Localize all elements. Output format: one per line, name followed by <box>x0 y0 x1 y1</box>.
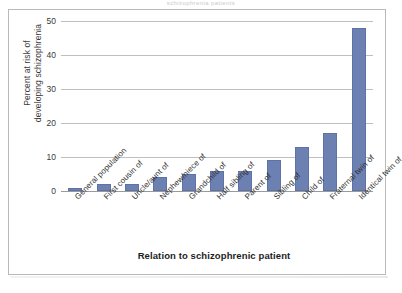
y-tick-label-30: 30 <box>47 84 56 94</box>
y-tick-label-50: 50 <box>47 16 56 26</box>
scan-top-cutoff-text: schizophrenia patients <box>0 0 402 9</box>
x-tick-slot: Fraternal twin of <box>316 193 344 255</box>
x-tick-slot: Identical twin of <box>345 193 373 255</box>
x-axis-title: Relation to schizophrenic patient <box>49 250 379 261</box>
x-axis-tick-labels: General populationFirst cousin ofUncle/a… <box>61 193 373 255</box>
bar-slot <box>288 21 316 191</box>
x-tick-slot: Uncle/aunt of <box>118 193 146 255</box>
x-tick-slot: Sibling of <box>260 193 288 255</box>
bar-child-of[interactable] <box>295 147 309 191</box>
figure-shadow <box>10 276 388 278</box>
bar-slot <box>316 21 344 191</box>
y-axis-title: Percent at risk of developing schizophre… <box>22 3 44 143</box>
bar-slot <box>260 21 288 191</box>
bar-slot <box>61 21 89 191</box>
y-tick-label-40: 40 <box>47 50 56 60</box>
bar-chart: Percent at risk of developing schizophre… <box>9 10 387 276</box>
x-tick-slot: General population <box>61 193 89 255</box>
x-tick-slot: First cousin of <box>89 193 117 255</box>
bar-fraternal-twin-of[interactable] <box>323 133 337 191</box>
x-tick-slot: Child of <box>288 193 316 255</box>
x-tick-slot: Nephew/niece of <box>146 193 174 255</box>
x-tick-slot: Half sibling of <box>203 193 231 255</box>
y-tick-label-0: 0 <box>51 186 56 196</box>
x-tick-slot: Grandchild of <box>174 193 202 255</box>
y-axis-title-line1: Percent at risk of <box>22 3 33 143</box>
y-tick-label-20: 20 <box>47 118 56 128</box>
y-axis-title-line2: developing schizophrenia <box>33 3 44 143</box>
y-tick-label-10: 10 <box>47 152 56 162</box>
x-tick-slot: Parent of <box>231 193 259 255</box>
figure-frame: Percent at risk of developing schizophre… <box>8 9 386 275</box>
